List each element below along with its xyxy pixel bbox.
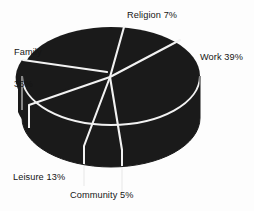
pie-label-community: Community 5% bbox=[70, 190, 134, 201]
pie-chart: Religion 7% Work 39% Family 36% Leisure … bbox=[0, 0, 254, 211]
pie-label-family: Family 36% bbox=[14, 26, 42, 110]
pie-label-religion: Religion 7% bbox=[127, 10, 177, 21]
pie-label-family-value: 36% bbox=[14, 79, 42, 90]
pie-label-leisure: Leisure 13% bbox=[13, 172, 65, 183]
pie-label-work: Work 39% bbox=[200, 52, 243, 63]
pie-label-family-name: Family bbox=[14, 47, 42, 58]
